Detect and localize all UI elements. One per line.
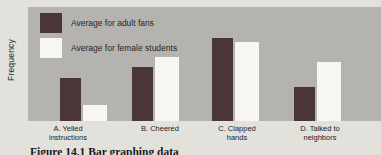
bar-female-students (83, 105, 107, 121)
bar-adult-fans (294, 87, 315, 121)
figure-caption: Figure 14.1 Bar graphing data (30, 146, 179, 155)
bar-female-students (235, 42, 259, 121)
legend-swatch-female-students (40, 38, 62, 58)
bar-adult-fans (212, 38, 233, 121)
legend-label-female-students: Average for female students (71, 43, 177, 53)
bar-female-students (317, 62, 341, 121)
legend-item-female-students: Average for female students (40, 38, 177, 58)
legend-item-adult-fans: Average for adult fans (40, 13, 154, 33)
legend-label-adult-fans: Average for adult fans (71, 18, 154, 28)
bar-female-students (155, 57, 179, 121)
y-axis-label: Frequency (6, 25, 16, 95)
category-label: C. Clapped hands (218, 124, 256, 142)
category-label: A. Yelled instructions (49, 124, 87, 142)
legend-swatch-adult-fans (40, 13, 62, 33)
plot-area: Average for adult fans Average for femal… (28, 7, 381, 121)
category-label: D. Talked to neighbors (300, 124, 339, 142)
bar-adult-fans (132, 67, 153, 121)
bar-adult-fans (60, 78, 81, 121)
category-label: B. Cheered (141, 124, 179, 133)
figure-page: Frequency Average for adult fans Average… (0, 0, 381, 155)
